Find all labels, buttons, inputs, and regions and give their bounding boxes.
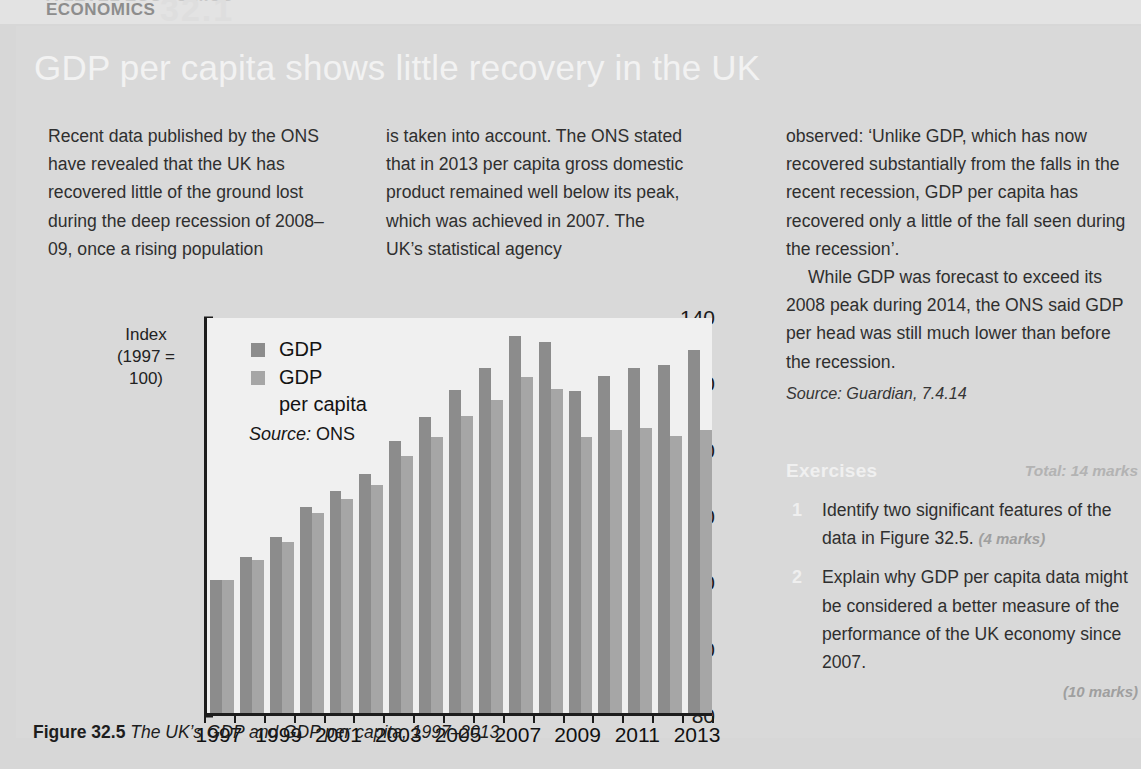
article-column-2: is taken into account. The ONS stated th… xyxy=(386,122,686,263)
article-column-1-paragraph: Recent data published by the ONS have re… xyxy=(48,122,348,263)
chart-x-tick-mark xyxy=(563,716,565,723)
chart-bar xyxy=(581,437,593,713)
figure-caption-label: Figure 32.5 xyxy=(33,722,125,742)
chart-bar xyxy=(491,400,503,713)
legend-label-gdp-per-capita-line1: GDP xyxy=(279,366,322,388)
exercises-block: Exercises Total: 14 marks 1 Identify two… xyxy=(786,460,1138,706)
chart-bar xyxy=(628,368,640,713)
chart-bar xyxy=(479,368,491,713)
chart-bar xyxy=(330,491,342,713)
chart-source-note: Source: ONS xyxy=(249,424,439,445)
chart-bar xyxy=(598,376,610,713)
exercise-number: 2 xyxy=(792,563,802,591)
chart-source-value: ONS xyxy=(316,424,355,444)
chart-bar xyxy=(658,365,670,713)
legend-entry-gdp-per-capita: GDP per capita xyxy=(249,364,439,418)
chart-bar xyxy=(431,437,443,713)
chart-x-tick-label: 2011 xyxy=(615,723,660,747)
chart-x-tick-mark xyxy=(712,716,714,723)
figure-chart: Index (1997 = 100) 8090100110120130140 G… xyxy=(104,308,724,738)
article-column-3: observed: ‘Unlike GDP, which has now rec… xyxy=(786,122,1131,407)
chart-bar xyxy=(688,350,700,713)
running-head-chapter-number: 32.1 xyxy=(160,0,234,24)
running-head: A LEVEL ECONOMICS ECONOMICS 32.1 xyxy=(0,0,1141,24)
legend-entry-gdp: GDP xyxy=(249,336,439,364)
chart-y-axis-label: Index (1997 = 100) xyxy=(98,324,194,390)
chart-bar xyxy=(341,499,353,713)
chart-bar xyxy=(610,430,622,713)
chart-bar xyxy=(222,580,234,713)
exercises-header: Exercises Total: 14 marks xyxy=(786,460,1138,486)
exercise-item: 2 Explain why GDP per capita data might … xyxy=(786,563,1138,706)
chart-bar xyxy=(401,456,413,713)
legend-label-gdp-per-capita-line2: per capita xyxy=(279,393,367,415)
chart-x-tick-mark xyxy=(592,716,594,723)
chart-bar xyxy=(240,557,252,713)
article-column-3-paragraph-2: While GDP was forecast to exceed its 200… xyxy=(786,263,1131,376)
chart-x-tick-label: 2009 xyxy=(554,723,601,747)
legend-swatch-gdp-icon xyxy=(251,343,265,357)
chart-bar xyxy=(252,560,264,713)
chart-bar xyxy=(312,513,324,713)
page-root: A LEVEL ECONOMICS ECONOMICS 32.1 GDP per… xyxy=(0,0,1141,769)
chart-bar xyxy=(282,542,294,713)
article-column-2-paragraph: is taken into account. The ONS stated th… xyxy=(386,122,686,263)
exercise-item: 1 Identify two significant features of t… xyxy=(786,496,1138,553)
chart-bar xyxy=(509,336,521,713)
chart-x-tick-mark xyxy=(503,716,505,723)
chart-bar xyxy=(551,389,563,713)
exercise-marks: (10 marks) xyxy=(822,678,1138,706)
running-head-subject: ECONOMICS xyxy=(46,0,155,20)
chart-bar xyxy=(700,430,712,713)
legend-label-gdp: GDP xyxy=(279,338,322,360)
chart-bar xyxy=(640,428,652,713)
chart-bar xyxy=(270,537,282,713)
chart-bar xyxy=(521,377,533,713)
exercises-total-marks: Total: 14 marks xyxy=(1025,462,1138,480)
article-column-1: Recent data published by the ONS have re… xyxy=(48,122,348,263)
chart-x-tick-label: 2013 xyxy=(674,723,721,747)
exercise-marks: (4 marks) xyxy=(979,530,1046,547)
chart-bar xyxy=(419,417,431,713)
article-source-credit: Source: Guardian, 7.4.14 xyxy=(786,379,1131,407)
exercises-title: Exercises xyxy=(786,460,877,482)
chart-bar xyxy=(569,391,581,713)
article-panel: GDP per capita shows little recovery in … xyxy=(16,26,1141,738)
chart-y-axis-label-line1: Index xyxy=(98,324,194,346)
exercise-text: Identify two significant features of the… xyxy=(822,500,1111,548)
exercise-number: 1 xyxy=(792,496,802,524)
chart-bar xyxy=(449,390,461,713)
chart-bar xyxy=(359,474,371,713)
chart-bar xyxy=(300,507,312,713)
legend-swatch-gdp-per-capita-icon xyxy=(251,371,265,385)
article-headline: GDP per capita shows little recovery in … xyxy=(34,48,1114,88)
figure-caption: Figure 32.5 The UK’s GDP and GDP per cap… xyxy=(33,722,499,743)
chart-x-tick-mark xyxy=(652,716,654,723)
chart-x-tick-mark xyxy=(622,716,624,723)
article-column-3-paragraph-1: observed: ‘Unlike GDP, which has now rec… xyxy=(786,122,1131,263)
chart-source-prefix: Source: xyxy=(249,424,311,444)
chart-bar xyxy=(371,485,383,713)
chart-bar xyxy=(461,416,473,713)
exercise-text: Explain why GDP per capita data might be… xyxy=(822,567,1128,672)
chart-x-tick-label: 2007 xyxy=(494,723,541,747)
chart-x-tick-mark xyxy=(682,716,684,723)
figure-caption-text: The UK’s GDP and GDP per capita, 1997–20… xyxy=(130,722,499,742)
chart-plot-area: GDP GDP per capita Source: ONS xyxy=(204,318,712,716)
chart-bar xyxy=(670,436,682,713)
chart-bar xyxy=(539,342,551,713)
chart-bar xyxy=(210,580,222,713)
chart-x-tick-mark xyxy=(533,716,535,723)
chart-y-axis-label-line2: (1997 = 100) xyxy=(98,346,194,390)
chart-legend: GDP GDP per capita Source: ONS xyxy=(249,336,439,445)
chart-bar xyxy=(389,441,401,713)
